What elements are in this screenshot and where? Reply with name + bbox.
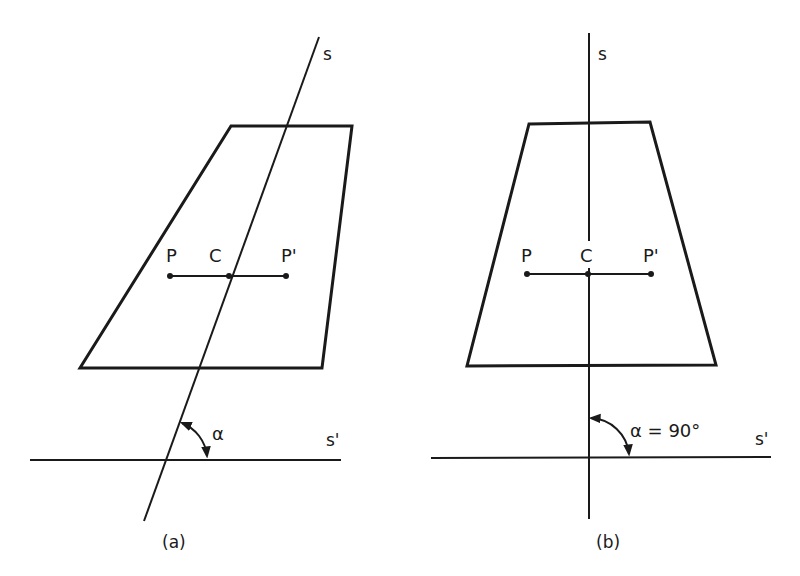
panel-b: s P C P' α = 90° s' (b) [431, 33, 771, 552]
angle-arc-a [182, 423, 207, 456]
point-c-a [226, 273, 232, 279]
label-p-b: P [521, 245, 532, 266]
angle-label-a: α [212, 423, 224, 444]
point-c-b [585, 271, 591, 277]
point-p-prime-a [283, 273, 289, 279]
label-s-a: s [323, 44, 332, 64]
trapezoid-b [467, 122, 716, 366]
label-p-prime-b: P' [643, 245, 659, 266]
caption-b: (b) [596, 532, 620, 552]
label-c-a: C [209, 245, 222, 266]
diagram-canvas: s P C P' α s' (a) s P C P' α = 90° s' (b… [0, 0, 800, 576]
angle-label-b: α = 90° [630, 420, 700, 441]
reference-line-s-prime-b [431, 457, 771, 458]
label-c-b: C [580, 245, 593, 266]
caption-a: (a) [162, 532, 186, 552]
point-p-prime-b [648, 271, 654, 277]
point-p-b [524, 271, 530, 277]
point-p-a [167, 273, 173, 279]
label-s-prime-b: s' [755, 429, 769, 449]
panel-a: s P C P' α s' (a) [30, 37, 352, 552]
label-p-prime-a: P' [281, 245, 297, 266]
axis-s-a [144, 37, 319, 521]
label-s-b: s [598, 44, 607, 64]
angle-arc-b [591, 418, 629, 454]
label-p-a: P [166, 245, 177, 266]
label-s-prime-a: s' [326, 430, 340, 450]
